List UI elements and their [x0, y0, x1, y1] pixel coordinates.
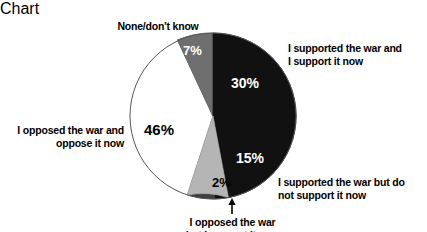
- value-label-supported-still-support: 30%: [231, 76, 259, 90]
- callout-label-none-dont-know: None/don't know: [88, 20, 228, 33]
- pie-chart-figure: None/don't know I supported the war and …: [0, 18, 427, 232]
- callout-label-supported-no-longer: I supported the war but do not support i…: [278, 176, 427, 202]
- leader-arrow-icon: [228, 198, 235, 214]
- value-label-supported-no-longer: 15%: [236, 151, 264, 165]
- callout-label-opposed-now-support: I opposed the war but I support it now: [160, 216, 305, 232]
- callout-label-opposed-still-oppose: I opposed the war and oppose it now: [2, 124, 124, 150]
- value-label-opposed-still-oppose: 46%: [144, 123, 174, 137]
- callout-label-supported-still-support: I supported the war and I support it now: [288, 42, 427, 68]
- value-label-opposed-now-support: 2%: [212, 176, 231, 190]
- value-label-none-dont-know: 7%: [183, 44, 202, 58]
